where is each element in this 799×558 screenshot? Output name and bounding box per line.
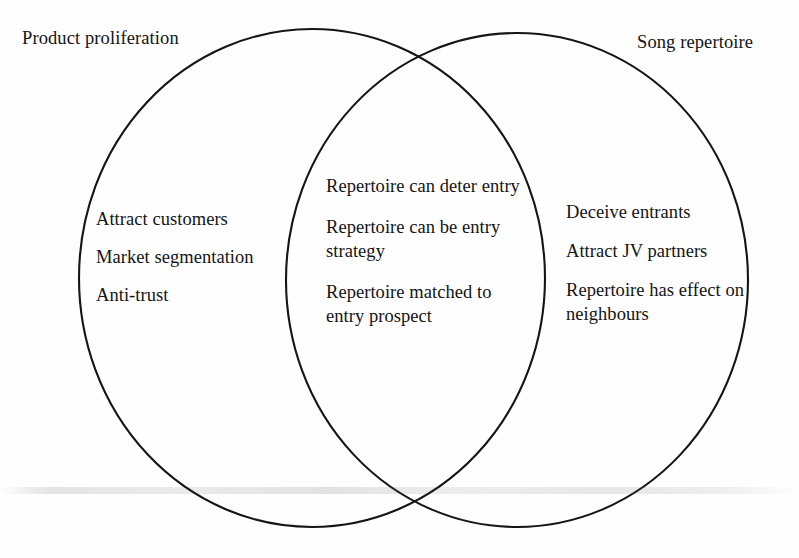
list-item: Market segmentation (96, 245, 286, 269)
left-set-label: Product proliferation (22, 28, 179, 49)
list-item: Repertoire can deter entry (326, 174, 522, 198)
list-item: Anti-trust (96, 283, 286, 307)
list-item: Deceive entrants (566, 200, 752, 224)
right-set-label: Song repertoire (637, 32, 753, 53)
list-item: Attract JV partners (566, 239, 752, 263)
left-set-item-list: Attract customers Market segmentation An… (96, 207, 286, 307)
right-set-item-list: Deceive entrants Attract JV partners Rep… (566, 200, 752, 341)
list-item: Repertoire matched to entry prospect (326, 280, 522, 328)
list-item: Attract customers (96, 207, 286, 231)
list-item: Repertoire can be entry strategy (326, 215, 522, 263)
intersection-item-list: Repertoire can deter entry Repertoire ca… (326, 174, 522, 345)
venn-diagram-page: Product proliferation Song repertoire At… (0, 0, 799, 558)
list-item: Repertoire has effect on neighbours (566, 278, 752, 326)
